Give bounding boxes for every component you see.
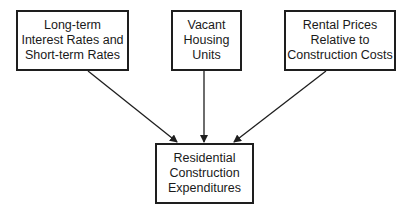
node-label-line: Residential (174, 151, 236, 166)
node-interest-rates: Long-term Interest Rates and Short-term … (16, 10, 129, 71)
node-label-line: Construction Costs (287, 48, 393, 63)
arrow-rental-to-construction (234, 71, 326, 142)
arrow-interest-to-construction (88, 71, 177, 142)
node-label-line: Long-term (44, 18, 101, 33)
node-vacant-housing: Vacant Housing Units (171, 10, 242, 71)
node-label-line: Units (192, 48, 220, 63)
node-label-line: Vacant (188, 18, 226, 33)
node-label-line: Rental Prices (303, 18, 377, 33)
node-label-line: Housing (184, 33, 230, 48)
node-rental-prices: Rental Prices Relative to Construction C… (284, 10, 396, 71)
node-label-line: Construction (169, 166, 239, 181)
node-label-line: Relative to (310, 33, 369, 48)
node-label-line: Interest Rates and (21, 33, 123, 48)
node-label-line: Expenditures (168, 181, 241, 196)
node-residential-construction: Residential Construction Expenditures (155, 143, 254, 204)
node-label-line: Short-term Rates (25, 48, 120, 63)
